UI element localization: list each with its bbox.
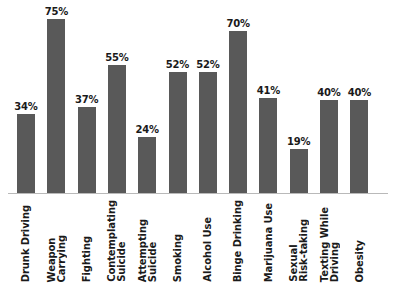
bar: [199, 72, 217, 193]
bar-group: 24%: [138, 0, 156, 194]
x-tick-label: Obesity: [350, 196, 368, 282]
x-tick-label: Alcohol Use: [199, 196, 217, 282]
x-tick-label: Contemplating Suicide: [108, 196, 126, 282]
bar-group: 37%: [78, 0, 96, 194]
bar-value-label: 70%: [226, 18, 249, 29]
x-tick-label-text: Contemplating Suicide: [107, 200, 126, 282]
bar: [259, 98, 277, 193]
bar: [229, 31, 247, 193]
bar-group: 41%: [259, 0, 277, 194]
bar: [47, 19, 65, 193]
bar-group: 52%: [169, 0, 187, 194]
bar-group: 40%: [320, 0, 338, 194]
x-tick-label: Fighting: [78, 196, 96, 282]
bar-value-label: 19%: [287, 136, 310, 147]
bar-value-label: 40%: [317, 87, 340, 98]
x-tick-label-text: Obesity: [355, 240, 365, 282]
bar-value-label: 55%: [105, 52, 128, 63]
bar-value-label: 52%: [166, 59, 189, 70]
x-tick-label-text: Drunk Driving: [21, 205, 31, 282]
x-tick-label: Smoking: [169, 196, 187, 282]
bar-group: 19%: [290, 0, 308, 194]
bar-chart: 34%75%37%55%24%52%52%70%41%19%40%40% Dru…: [0, 0, 396, 286]
bar: [108, 65, 126, 193]
bar: [138, 137, 156, 193]
x-axis-line: [8, 193, 388, 194]
x-tick-label-text: Weapon Carrying: [47, 235, 66, 282]
bar-value-label: 40%: [348, 87, 371, 98]
x-tick-label-text: Texting While Driving: [320, 207, 339, 282]
bar: [169, 72, 187, 193]
x-tick-label-text: Binge Drinking: [233, 200, 243, 282]
x-tick-label-text: Fighting: [82, 236, 92, 282]
bar: [290, 149, 308, 193]
plot-area: 34%75%37%55%24%52%52%70%41%19%40%40%: [0, 0, 396, 194]
x-tick-label: Attempting Suicide: [138, 196, 156, 282]
bar-group: 70%: [229, 0, 247, 194]
x-tick-label-text: Sexual Risk-taking: [289, 219, 308, 282]
x-tick-label: Drunk Driving: [17, 196, 35, 282]
bar-value-label: 41%: [257, 85, 280, 96]
bar: [350, 100, 368, 193]
bar-group: 40%: [350, 0, 368, 194]
x-axis-tick-labels: Drunk DrivingWeapon CarryingFightingCont…: [0, 196, 396, 286]
bar-value-label: 37%: [75, 94, 98, 105]
x-tick-label-text: Attempting Suicide: [138, 219, 157, 282]
bar-value-label: 75%: [45, 6, 68, 17]
bar-group: 75%: [47, 0, 65, 194]
bar-value-label: 24%: [136, 124, 159, 135]
x-tick-label: Weapon Carrying: [47, 196, 65, 282]
x-tick-label-text: Alcohol Use: [203, 217, 213, 282]
bar: [78, 107, 96, 193]
bar-value-label: 52%: [196, 59, 219, 70]
x-tick-label: Sexual Risk-taking: [290, 196, 308, 282]
x-tick-label: Binge Drinking: [229, 196, 247, 282]
bar-group: 34%: [17, 0, 35, 194]
bar-value-label: 34%: [14, 101, 37, 112]
x-tick-label: Texting While Driving: [320, 196, 338, 282]
bar: [17, 114, 35, 193]
x-tick-label-text: Marijuana Use: [264, 203, 274, 282]
bar-group: 55%: [108, 0, 126, 194]
bar: [320, 100, 338, 193]
bar-group: 52%: [199, 0, 217, 194]
x-tick-label: Marijuana Use: [259, 196, 277, 282]
x-tick-label-text: Smoking: [173, 234, 183, 282]
